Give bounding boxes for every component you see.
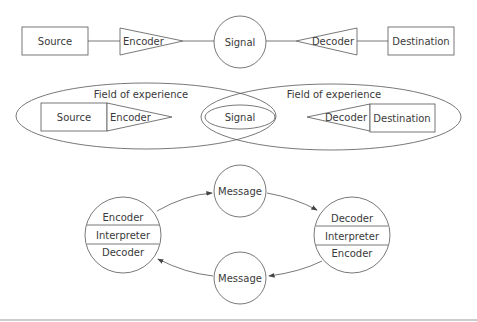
linear-model: Source Encoder Signal Decoder Destinatio… <box>22 16 454 68</box>
circular-model: Message Message Encoder Interpreter Deco… <box>85 165 390 304</box>
destination-label-2: Destination <box>373 113 430 124</box>
left-node-decoder: Decoder <box>102 247 145 258</box>
message-top-label: Message <box>218 186 262 197</box>
destination-label: Destination <box>392 36 449 47</box>
left-node-encoder: Encoder <box>103 212 145 223</box>
right-node-encoder: Encoder <box>332 248 374 259</box>
source-label: Source <box>38 36 72 47</box>
message-bottom-label: Message <box>218 273 262 284</box>
field-of-experience-model: Field of experience Field of experience … <box>16 83 461 150</box>
decoder-label: Decoder <box>312 36 355 47</box>
encoder-label: Encoder <box>123 36 165 47</box>
source-label-2: Source <box>57 112 91 123</box>
right-field-label: Field of experience <box>287 89 382 100</box>
decoder-label-2: Decoder <box>325 112 368 123</box>
right-node-decoder: Decoder <box>331 213 374 224</box>
left-field-label: Field of experience <box>94 89 189 100</box>
left-node-interpreter: Interpreter <box>96 230 151 241</box>
communication-models-diagram: Source Encoder Signal Decoder Destinatio… <box>0 0 477 322</box>
encoder-label-2: Encoder <box>110 112 152 123</box>
signal-label-2: Signal <box>225 112 256 123</box>
signal-label: Signal <box>225 37 256 48</box>
right-node-interpreter: Interpreter <box>325 231 380 242</box>
